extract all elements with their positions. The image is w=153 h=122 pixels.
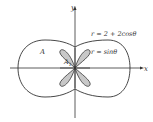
polar-diagram: y x r = 2 + 2cosθ r = sinθ A A1 [0, 0, 153, 122]
inner-curve-label: r = sinθ [91, 48, 117, 56]
region-a-label: A [39, 48, 45, 56]
outer-curve-label: r = 2 + 2cosθ [91, 30, 136, 38]
x-axis-label: x [144, 65, 148, 73]
